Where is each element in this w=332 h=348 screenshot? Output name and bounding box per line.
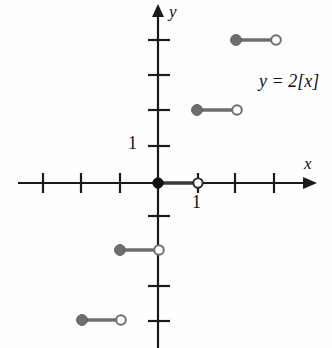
closed-endpoint-dot: [115, 245, 126, 256]
closed-endpoint-dot: [231, 35, 242, 46]
open-endpoint-dot-overlay: [193, 178, 202, 187]
equation-label: y = 2[x]: [259, 72, 319, 90]
closed-endpoint-dot: [77, 315, 88, 326]
step-segment-yneg2: [115, 245, 164, 256]
axes-group: [18, 4, 317, 348]
open-endpoint-dot: [271, 35, 281, 45]
y-axis-unit-label: 1: [128, 134, 137, 152]
y-axis-label: y: [169, 3, 177, 20]
step-function-graph: y x 1 1 y = 2[x]: [0, 0, 332, 348]
y-axis-arrowhead: [152, 4, 164, 17]
step-segment-y0: [153, 173, 203, 193]
x-axis-arrowhead: [303, 177, 317, 189]
x-axis-label: x: [304, 155, 312, 172]
closed-endpoint-dot: [153, 178, 163, 188]
step-segment-y2: [192, 105, 242, 116]
open-endpoint-dot: [232, 105, 242, 115]
open-endpoint-dot: [154, 245, 164, 255]
step-segment-yneg4: [77, 315, 126, 326]
step-segment-y4: [231, 35, 281, 46]
open-endpoint-dot: [116, 315, 126, 325]
x-axis-unit-label: 1: [192, 193, 201, 211]
closed-endpoint-dot: [192, 105, 203, 116]
plot-canvas: [0, 0, 332, 348]
